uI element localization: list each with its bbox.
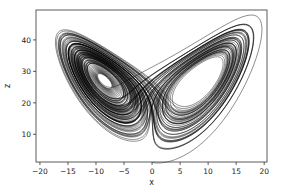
x-tick-label: 10 [203, 167, 213, 176]
y-tick-label: 40 [21, 36, 31, 45]
x-tick-label: 15 [231, 167, 241, 176]
trajectory-line [55, 15, 262, 163]
x-tick-label: 5 [178, 167, 183, 176]
y-tick-label: 30 [21, 67, 31, 76]
x-tick-label: −20 [32, 167, 48, 176]
x-tick-label: −10 [88, 167, 104, 176]
x-tick-label: 0 [150, 167, 155, 176]
y-tick-label: 10 [21, 130, 31, 139]
lorenz-chart: −20−15−10−505101520 10203040 x z [0, 0, 283, 196]
x-axis-ticks: −20−15−10−505101520 [32, 162, 269, 176]
y-tick-label: 20 [21, 99, 31, 108]
x-tick-label: 20 [259, 167, 269, 176]
y-axis-label: z [3, 84, 12, 88]
x-tick-label: −15 [60, 167, 76, 176]
x-axis-label: x [149, 178, 154, 187]
x-tick-label: −5 [118, 167, 129, 176]
y-axis-ticks: 10203040 [21, 36, 36, 139]
plot-area [55, 15, 262, 163]
